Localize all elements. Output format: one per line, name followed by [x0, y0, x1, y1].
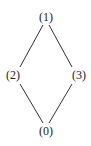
- node-2: (2): [6, 69, 20, 81]
- node-0: (0): [39, 125, 53, 137]
- edge-3-0: [49, 84, 72, 123]
- edge-2-0: [20, 84, 43, 123]
- hasse-diagram: (1) (2) (3) (0): [0, 0, 91, 146]
- node-1: (1): [39, 11, 53, 23]
- edge-1-3: [49, 25, 72, 67]
- edge-1-2: [20, 25, 43, 67]
- node-3: (3): [72, 69, 86, 81]
